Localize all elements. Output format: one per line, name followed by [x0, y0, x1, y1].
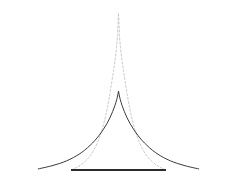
plot-canvas	[0, 0, 237, 191]
plot-background	[0, 0, 237, 191]
chart-figure	[0, 0, 237, 191]
